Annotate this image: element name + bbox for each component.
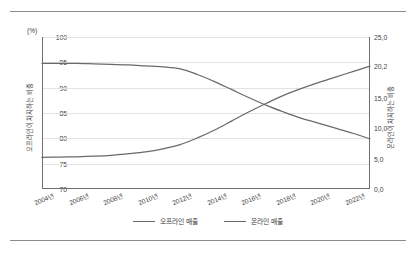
legend-swatch-offline [133, 221, 155, 222]
x-axis-tick-label: 2012년 [171, 190, 194, 207]
y-axis-title-left: 오프라인이 차지하는 비중 [25, 73, 34, 163]
y-axis-right-tick-label: 5,0 [374, 155, 400, 162]
x-axis-tick-label: 2008년 [101, 190, 124, 207]
series-lines [42, 37, 370, 189]
series-line-online [42, 66, 370, 157]
top-divider [10, 11, 406, 12]
x-axis-tick-label: 2010년 [136, 190, 159, 207]
legend-swatch-online [224, 221, 246, 222]
x-axis-tick-label: 2006년 [67, 190, 90, 207]
y-axis-unit-label: (%) [27, 27, 37, 34]
legend-label-offline: 오프라인 매출 [160, 216, 198, 226]
legend-item-online[interactable]: 온라인 매출 [224, 216, 283, 226]
x-axis-tick-label: 2018년 [274, 190, 297, 207]
legend-label-online: 온라인 매출 [251, 216, 283, 226]
chart-legend: 오프라인 매출 온라인 매출 [0, 216, 416, 226]
x-axis-tick-label: 2020년 [309, 190, 332, 207]
y-axis-right-tick-label: 25,0 [374, 34, 400, 41]
plot-area [42, 37, 370, 189]
x-axis-tick-label: 2014년 [205, 190, 228, 207]
y-axis-right-tick-label: 20,2 [374, 63, 400, 70]
bottom-divider [10, 240, 406, 241]
y-axis-right-tick-label: 10,0 [374, 125, 400, 132]
x-axis-tick-label: 2016년 [240, 190, 263, 207]
chart-figure: (%) 오프라인이 차지하는 비중 온라인이 차지하는 비중 707580859… [0, 0, 416, 253]
x-axis-tick-label: 2004년 [32, 190, 55, 207]
y-axis-right-tick-label: 15,0 [374, 94, 400, 101]
x-axis-tick-label: 2022년 [343, 190, 366, 207]
y-axis-title-right: 온라인이 차지하는 비중 [386, 73, 395, 163]
series-line-offline [42, 63, 370, 139]
y-axis-right-tick-label: 0,0 [374, 186, 400, 193]
legend-item-offline[interactable]: 오프라인 매출 [133, 216, 198, 226]
